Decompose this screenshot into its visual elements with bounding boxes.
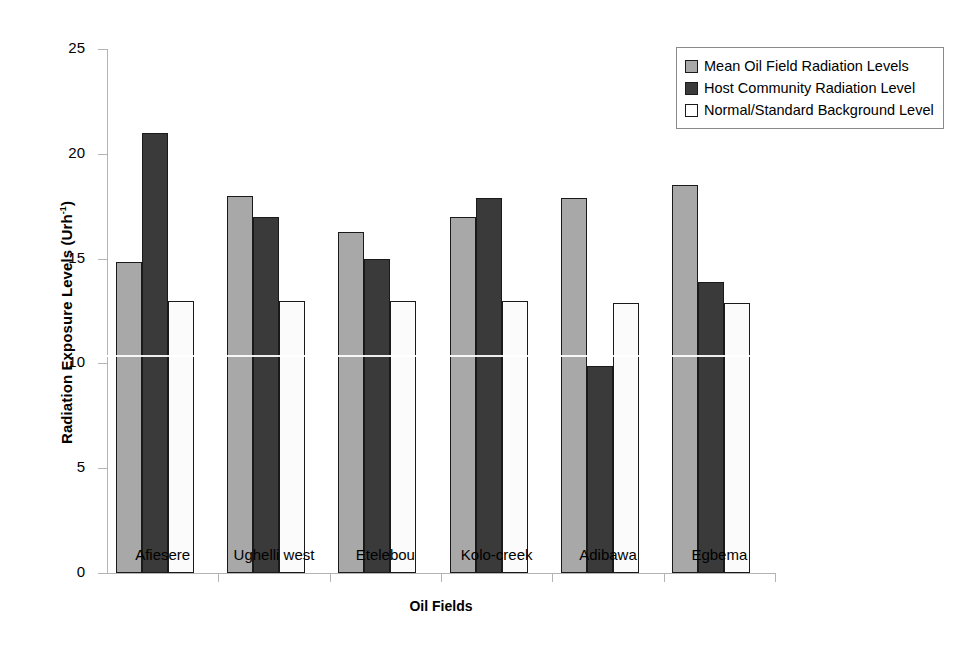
bar bbox=[253, 217, 279, 573]
y-axis-tick: 0 bbox=[98, 573, 107, 574]
bar bbox=[698, 282, 724, 573]
y-axis-tick: 25 bbox=[98, 49, 107, 50]
y-axis-tick: 10 bbox=[98, 363, 107, 364]
legend: Mean Oil Field Radiation Levels Host Com… bbox=[676, 47, 944, 129]
bar bbox=[613, 303, 639, 573]
bar-chart: Radiation Exposure Levels (Urh-1) 051015… bbox=[0, 0, 960, 650]
x-axis-tick bbox=[664, 573, 665, 582]
x-axis-category-label: Kolo-creek bbox=[441, 546, 552, 563]
x-axis-category-label: Etelebou bbox=[330, 546, 441, 563]
legend-swatch-icon bbox=[685, 82, 698, 95]
legend-swatch-icon bbox=[685, 60, 698, 73]
x-axis-tick bbox=[775, 573, 776, 582]
bar bbox=[561, 198, 587, 573]
y-axis-tick: 20 bbox=[98, 154, 107, 155]
y-axis-line bbox=[107, 49, 108, 573]
x-axis-title: Oil Fields bbox=[107, 598, 775, 614]
legend-item-label: Mean Oil Field Radiation Levels bbox=[704, 58, 909, 74]
y-axis-tick-label: 10 bbox=[68, 353, 85, 370]
plot-area: 0510152025 bbox=[107, 49, 775, 573]
x-axis-category-label: Egbema bbox=[664, 546, 775, 563]
bar bbox=[672, 185, 698, 573]
y-axis-title-paren: ) bbox=[58, 201, 75, 206]
y-axis-tick-label: 20 bbox=[68, 144, 85, 161]
bar bbox=[142, 133, 168, 573]
bar bbox=[502, 301, 528, 573]
y-axis-tick-label: 5 bbox=[77, 458, 85, 475]
bar bbox=[338, 232, 364, 573]
scan-artifact-line bbox=[107, 355, 775, 357]
x-axis-category-label: Adibawa bbox=[552, 546, 663, 563]
y-axis-tick: 15 bbox=[98, 259, 107, 260]
y-axis-title-exponent: -1 bbox=[58, 206, 68, 214]
bar bbox=[390, 301, 416, 573]
legend-item: Mean Oil Field Radiation Levels bbox=[685, 55, 934, 77]
x-axis-tick bbox=[330, 573, 331, 582]
x-axis-category-label: Afiesere bbox=[107, 546, 218, 563]
legend-item-label: Host Community Radiation Level bbox=[704, 80, 915, 96]
bar bbox=[168, 301, 194, 573]
y-axis-tick: 5 bbox=[98, 468, 107, 469]
bar bbox=[724, 303, 750, 573]
legend-item-label: Normal/Standard Background Level bbox=[704, 102, 934, 118]
y-axis-tick-label: 25 bbox=[68, 39, 85, 56]
bar bbox=[116, 262, 142, 573]
bar bbox=[450, 217, 476, 573]
bar bbox=[364, 259, 390, 573]
y-axis-tick-label: 15 bbox=[68, 249, 85, 266]
legend-swatch-icon bbox=[685, 104, 698, 117]
bar bbox=[587, 366, 613, 574]
legend-item: Normal/Standard Background Level bbox=[685, 99, 934, 121]
bar bbox=[227, 196, 253, 573]
legend-item: Host Community Radiation Level bbox=[685, 77, 934, 99]
x-axis-tick bbox=[441, 573, 442, 582]
scan-edge bbox=[0, 0, 960, 3]
y-axis-tick-label: 0 bbox=[77, 563, 85, 580]
x-axis-tick bbox=[552, 573, 553, 582]
y-axis-title: Radiation Exposure Levels (Urh-1) bbox=[58, 113, 75, 533]
bar bbox=[279, 301, 305, 573]
x-axis-tick bbox=[218, 573, 219, 582]
bar bbox=[476, 198, 502, 573]
x-axis-category-label: Ughelli west bbox=[218, 546, 329, 563]
